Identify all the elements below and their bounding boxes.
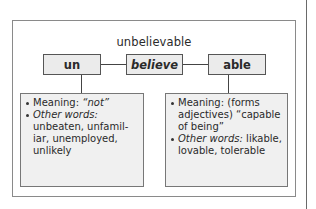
prefix-other-words-value: unbeaten, unfamil-iar, unemployed, unlik…	[33, 121, 128, 156]
morpheme-root-box: believe	[126, 54, 183, 75]
morpheme-prefix-label: un	[64, 58, 80, 72]
morpheme-root-label: believe	[131, 58, 178, 72]
prefix-other-words-label: Other words:	[33, 109, 98, 120]
connector-un-believe	[101, 64, 126, 65]
prefix-meaning-value: “not”	[82, 97, 109, 108]
morpheme-suffix-box: able	[208, 54, 266, 75]
suffix-other-words-label: Other words:	[178, 133, 243, 144]
prefix-meaning-item: Meaning: “not”	[26, 97, 139, 109]
connector-believe-able	[183, 64, 208, 65]
connector-un-details	[81, 75, 82, 93]
suffix-details-box: Meaning: (forms adjectives) “capable of …	[165, 93, 288, 187]
connector-able-details	[228, 75, 229, 93]
suffix-other-words-item: Other words: likable, lovable, tolerable	[171, 133, 283, 157]
prefix-other-words-item: Other words: unbeaten, unfamil-iar, unem…	[26, 109, 139, 157]
prefix-details-box: Meaning: “not” Other words: unbeaten, un…	[20, 93, 144, 187]
page-edge-rule	[306, 0, 307, 209]
suffix-meaning-item: Meaning: (forms adjectives) “capable of …	[171, 97, 283, 133]
suffix-meaning-label: Meaning:	[178, 97, 224, 108]
prefix-meaning-label: Meaning:	[33, 97, 79, 108]
morpheme-prefix-box: un	[43, 54, 101, 75]
morpheme-suffix-label: able	[223, 58, 251, 72]
word-title: unbelievable	[12, 35, 296, 49]
